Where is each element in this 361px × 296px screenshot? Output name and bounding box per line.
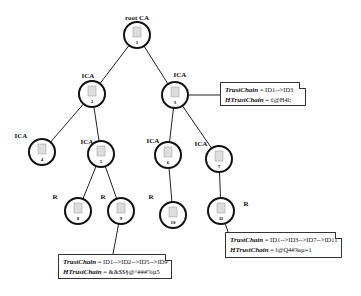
trustchain-key: TrustChain xyxy=(225,86,258,94)
role-label-r: R xyxy=(243,200,248,208)
role-label-r: R xyxy=(148,193,153,201)
folded-corner-icon xyxy=(299,82,306,89)
node-number: 11 xyxy=(219,216,224,221)
node-number: 5 xyxy=(100,159,103,164)
node-number: 2 xyxy=(91,99,94,104)
node-number: 4 xyxy=(41,157,44,162)
role-label-ica: ICA xyxy=(195,140,208,148)
htrustchain-value: = ¢@H4l; xyxy=(264,96,292,103)
trustchain-key: TrustChain xyxy=(63,258,96,266)
callout-node-3: TrustChain = ID1-->ID3 HTrustChain = ¢@H… xyxy=(220,82,306,106)
role-label-root-ca: root CA xyxy=(125,14,149,22)
htrustchain-value: = &&$$§@^###%µ5 xyxy=(102,268,160,275)
node-number: 3 xyxy=(174,100,177,105)
trustchain-value: = ID1-->ID3 xyxy=(258,86,293,93)
role-label-ica: ICA xyxy=(82,72,95,80)
htrustchain-key: HTrustChain xyxy=(225,96,264,104)
role-label-ica: ICA xyxy=(174,71,187,79)
node-number: 6 xyxy=(167,160,170,165)
node-number: 8 xyxy=(77,216,80,221)
trustchain-value: = ID1-->ID2-->ID5-->ID9 xyxy=(96,258,167,265)
htrustchain-key: HTrustChain xyxy=(230,246,269,254)
node-number: 10 xyxy=(171,220,176,225)
htrustchain-key: HTrustChain xyxy=(63,268,102,276)
tree-nodes xyxy=(29,22,234,228)
node-number: 9 xyxy=(120,216,123,221)
node-number: 1 xyxy=(136,40,139,45)
callout-node-11: TrustChain = ID1-->ID3-->ID7-->ID11 HTru… xyxy=(225,232,342,258)
trustchain-key: TrustChain xyxy=(230,236,263,244)
role-label-ica: ICA xyxy=(147,137,160,145)
folded-corner-icon xyxy=(335,232,342,239)
role-label-ica: ICA xyxy=(15,132,28,140)
folded-corner-icon xyxy=(165,254,172,261)
role-label-r: R xyxy=(100,193,105,201)
role-label-ica: ICA xyxy=(81,138,94,146)
trustchain-value: = ID1-->ID3-->ID7-->ID11 xyxy=(263,236,337,243)
callout-node-9: TrustChain = ID1-->ID2-->ID5-->ID9 HTrus… xyxy=(58,254,172,279)
node-number: 7 xyxy=(218,164,221,169)
role-label-r: R xyxy=(52,193,57,201)
htrustchain-value: = ‖@Q4#‰µ=1 xyxy=(269,246,312,253)
